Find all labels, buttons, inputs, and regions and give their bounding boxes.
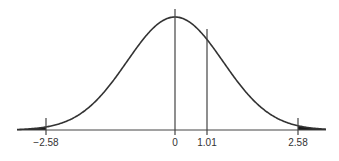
- tick-label: 2.58: [288, 137, 308, 148]
- tick-label: −2.58: [33, 137, 59, 148]
- tick-label: 0: [172, 137, 178, 148]
- shaded-tails: [17, 126, 326, 130]
- tick-label: 1.01: [197, 137, 217, 148]
- reference-lines: [46, 9, 298, 135]
- tick-labels: −2.5801.012.58: [33, 137, 308, 148]
- normal-distribution-chart: −2.5801.012.58: [0, 0, 339, 161]
- bell-curve: [17, 17, 326, 130]
